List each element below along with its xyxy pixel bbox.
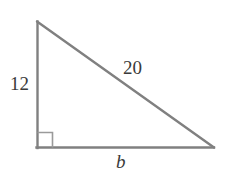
hypotenuse-line [37, 22, 214, 148]
right-triangle-figure: 12 20 b [0, 0, 228, 178]
vertical-leg-label: 12 [10, 74, 29, 93]
right-angle-marker-icon [38, 133, 53, 148]
triangle-drawing [0, 0, 228, 178]
hypotenuse-label: 20 [123, 58, 142, 77]
horizontal-leg-label: b [116, 152, 126, 171]
